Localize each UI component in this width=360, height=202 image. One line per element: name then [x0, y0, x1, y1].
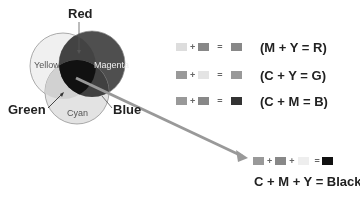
- label-green: Green: [8, 102, 46, 117]
- swatch-cyan: [176, 97, 187, 105]
- swatch-yellow: [298, 157, 309, 165]
- circle-label-cyan: Cyan: [67, 108, 88, 118]
- swatch-yellow: [198, 71, 209, 79]
- swatch-magenta: [198, 43, 209, 51]
- equation-red: + =: [176, 42, 242, 52]
- black-arrow: [76, 78, 242, 156]
- formula-red: (M + Y = R): [260, 40, 327, 55]
- label-red: Red: [68, 6, 93, 21]
- equation-black: + + =: [253, 156, 333, 166]
- swatch-cyan: [176, 71, 187, 79]
- circle-label-magenta: Magenta: [94, 60, 129, 70]
- swatch-magenta: [198, 97, 209, 105]
- swatch-green: [231, 71, 242, 79]
- circle-label-yellow: Yellow: [34, 60, 60, 70]
- formula-green: (C + Y = G): [260, 68, 326, 83]
- label-blue: Blue: [113, 102, 141, 117]
- swatch-black: [322, 157, 333, 165]
- swatch-blue: [231, 97, 242, 105]
- formula-black: C + M + Y = Black: [254, 174, 360, 189]
- swatch-red: [231, 43, 242, 51]
- formula-blue: (C + M = B): [260, 94, 328, 109]
- equation-green: + =: [176, 70, 242, 80]
- swatch-cyan: [253, 157, 264, 165]
- swatch-yellow: [176, 43, 187, 51]
- arrow-head: [236, 150, 248, 162]
- swatch-magenta: [275, 157, 286, 165]
- equation-blue: + =: [176, 96, 242, 106]
